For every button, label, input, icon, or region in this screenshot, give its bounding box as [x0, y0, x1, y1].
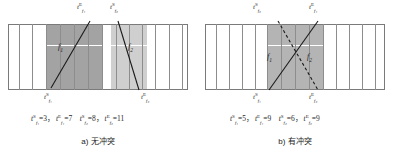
- flight-f1-sub: 1: [269, 57, 272, 63]
- flight-f2-sub: 2: [130, 47, 133, 53]
- panel-b: f1 f2 tSf₂ tEf₁ tSf₁ tEf₂ tSf₁=5， tEf₁=9…: [197, 0, 393, 153]
- panel-a-values: tSf₁=3， tEf₁=7 tSf₂=8， tEf₂=11: [31, 112, 124, 125]
- panel-a-grid: [8, 24, 188, 90]
- top-label-t-f1-end: tEf₁: [309, 2, 317, 13]
- trajectory-f2: [278, 21, 318, 90]
- flight-label-f1: f1: [58, 42, 63, 53]
- bottom-label-t-f2-end: tEf₂: [141, 92, 149, 103]
- panel-b-grid: [205, 24, 385, 90]
- flight-f2-sub: 2: [309, 57, 312, 63]
- panel-b-caption: b) 有冲突: [197, 135, 393, 146]
- panel-a: f1 f2 tEf₁ tSf₂ tSf₁ tEf₂ tSf₁=3， tEf₁=7…: [0, 0, 196, 153]
- bottom-label-t-f2-end: tEf₂: [309, 92, 317, 103]
- top-label-t-f1-end: tEf₁: [77, 2, 85, 13]
- top-label-t-f2-start: tSf₂: [253, 2, 261, 13]
- flight-f1-sub: 1: [60, 47, 63, 53]
- flight-label-f2: f2: [307, 52, 312, 63]
- figure-conflict-diagram: f1 f2 tEf₁ tSf₂ tSf₁ tEf₂ tSf₁=3， tEf₁=7…: [0, 0, 393, 153]
- trajectory-lines: [8, 24, 188, 90]
- trajectory-f1: [51, 21, 90, 88]
- trajectory-f2: [118, 21, 139, 90]
- bottom-label-t-f1-start: tSf₁: [253, 92, 261, 103]
- bottom-label-t-f1-start: tSf₁: [44, 92, 52, 103]
- panel-b-values: tSf₁=5， tEf₁=9 tSf₂=6， tEf₂=9: [230, 112, 320, 125]
- flight-label-f1: f1: [267, 52, 272, 63]
- panel-a-caption: a) 无冲突: [0, 135, 196, 146]
- trajectory-lines: [205, 24, 385, 90]
- top-label-t-f2-start: tSf₂: [110, 2, 118, 13]
- flight-label-f2: f2: [128, 42, 133, 53]
